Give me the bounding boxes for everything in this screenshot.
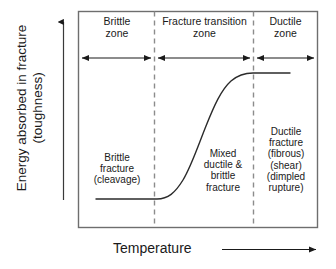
zone-title-transition: Fracture transition zone <box>155 16 254 40</box>
y-axis-title: Energy absorbed in fracture (toughness) <box>14 0 46 218</box>
zone-description-brittle: Brittle fracture (cleavage) <box>80 152 154 186</box>
zone-description-ductile: Ductile fracture (fibrous) (shear) (dimp… <box>255 126 317 193</box>
ductile-brittle-transition-figure: Energy absorbed in fracture (toughness) … <box>0 0 336 269</box>
zone-title-ductile: Ductile zone <box>254 16 317 40</box>
zone-title-brittle: Brittle zone <box>80 16 154 40</box>
zone-description-transition: Mixed ductile & brittle fracture <box>193 148 253 193</box>
x-axis-title: Temperature <box>113 240 192 256</box>
plot-frame <box>79 12 318 228</box>
